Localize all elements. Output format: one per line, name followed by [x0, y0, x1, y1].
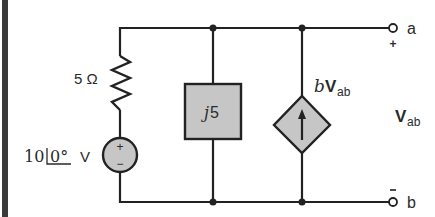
page-edge-bar	[2, 0, 8, 217]
dep-coef: b	[314, 76, 325, 96]
source-unit: V	[80, 148, 90, 165]
source-angle: 0°	[50, 147, 68, 166]
circuit-diagram: 5 Ω + − 10 0° V j 5 b V ab a + b	[0, 0, 435, 217]
terminal-a	[389, 24, 397, 32]
dependent-current-source	[274, 96, 330, 153]
source-magnitude: 10	[24, 147, 44, 166]
wires	[120, 28, 389, 202]
j5-value: 5	[210, 104, 219, 121]
terminal-b-label: b	[407, 194, 416, 211]
dependent-source-label: b V ab	[314, 76, 351, 99]
vab-sub: ab	[407, 115, 421, 129]
dep-var: V	[325, 77, 337, 96]
terminal-b	[389, 198, 397, 206]
source-plus: +	[116, 140, 123, 154]
terminal-a-label: a	[407, 20, 416, 37]
output-voltage-label: V ab	[395, 107, 421, 129]
source-minus: −	[116, 157, 123, 171]
voltage-source-label: 10 0° V	[24, 147, 90, 166]
terminal-a-polarity: +	[389, 37, 396, 51]
inductor-j5: j 5	[185, 84, 241, 139]
top-wire	[120, 28, 389, 56]
voltage-source: + −	[103, 138, 137, 172]
resistor-label: 5 Ω	[74, 70, 98, 87]
resistor-5-ohm	[112, 56, 130, 110]
bottom-wire	[120, 172, 389, 202]
dep-sub: ab	[337, 85, 351, 99]
vab-var: V	[395, 107, 407, 126]
